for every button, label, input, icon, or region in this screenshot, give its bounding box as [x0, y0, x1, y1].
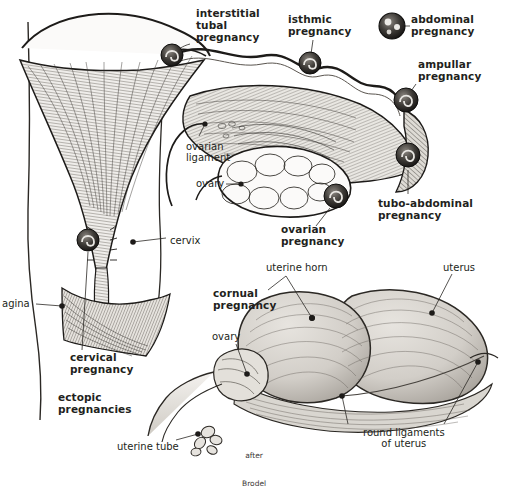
- attribution-credit: after Brodel: [242, 432, 266, 490]
- fallopian-tube-illustration: [166, 49, 428, 217]
- dot-ovary-lower: [244, 371, 250, 377]
- label-vagina: agina: [2, 298, 30, 309]
- label-ampullar-pregnancy: ampullar pregnancy: [418, 59, 481, 83]
- label-ovarian-pregnancy: ovarian pregnancy: [281, 224, 344, 248]
- leader-vagina: [36, 304, 62, 306]
- fimbriae-cluster: [190, 424, 222, 457]
- cornual-pregnancy-illustration: [148, 290, 498, 457]
- label-tubo-abdominal-pregnancy: tubo-abdominal pregnancy: [378, 198, 473, 222]
- label-interstitial-tubal-pregnancy: interstitial tubal pregnancy: [196, 8, 260, 43]
- dot-ovarian-ligament: [202, 121, 207, 126]
- marker-tubo-abdominal: [396, 143, 420, 167]
- label-cornual-pregnancy: cornual pregnancy: [213, 288, 276, 312]
- label-uterine-tube: uterine tube: [117, 441, 179, 452]
- label-ovary-upper: ovary: [196, 178, 224, 189]
- marker-cornual-embryo: [309, 315, 315, 321]
- label-cervical-pregnancy: cervical pregnancy: [70, 352, 133, 376]
- label-round-ligaments-of-uterus: round ligaments of uterus: [363, 427, 445, 449]
- attribution-line2: Brodel: [242, 479, 266, 488]
- dot-vagina: [59, 303, 65, 309]
- marker-ampullar: [394, 88, 418, 112]
- label-ovary-lower: ovary: [212, 331, 240, 342]
- marker-abdominal-free: [379, 13, 405, 39]
- attribution-line1: after: [242, 451, 266, 460]
- dot-uterine-tube: [195, 431, 201, 437]
- marker-cervical: [77, 229, 99, 251]
- marker-interstitial: [161, 44, 183, 66]
- dot-uterus: [429, 310, 435, 316]
- label-ovarian-ligament: ovarian ligament: [186, 141, 230, 163]
- dot-round-ligament-a: [339, 393, 345, 399]
- dot-round-ligament-b: [475, 359, 481, 365]
- leader-uterine-tube: [176, 434, 198, 440]
- label-cervix: cervix: [170, 235, 200, 246]
- label-abdominal-pregnancy: abdominal pregnancy: [411, 14, 474, 38]
- dot-cervix: [130, 239, 136, 245]
- dot-ovary-upper: [238, 181, 243, 186]
- uterine-tube-lower: [148, 372, 214, 436]
- label-uterus: uterus: [443, 262, 475, 273]
- label-uterine-horn: uterine horn: [266, 262, 328, 273]
- marker-isthmic: [299, 52, 321, 74]
- marker-ovarian: [324, 184, 348, 208]
- label-isthmic-pregnancy: isthmic pregnancy: [288, 14, 351, 38]
- figure-caption: ectopic pregnancies: [58, 392, 132, 416]
